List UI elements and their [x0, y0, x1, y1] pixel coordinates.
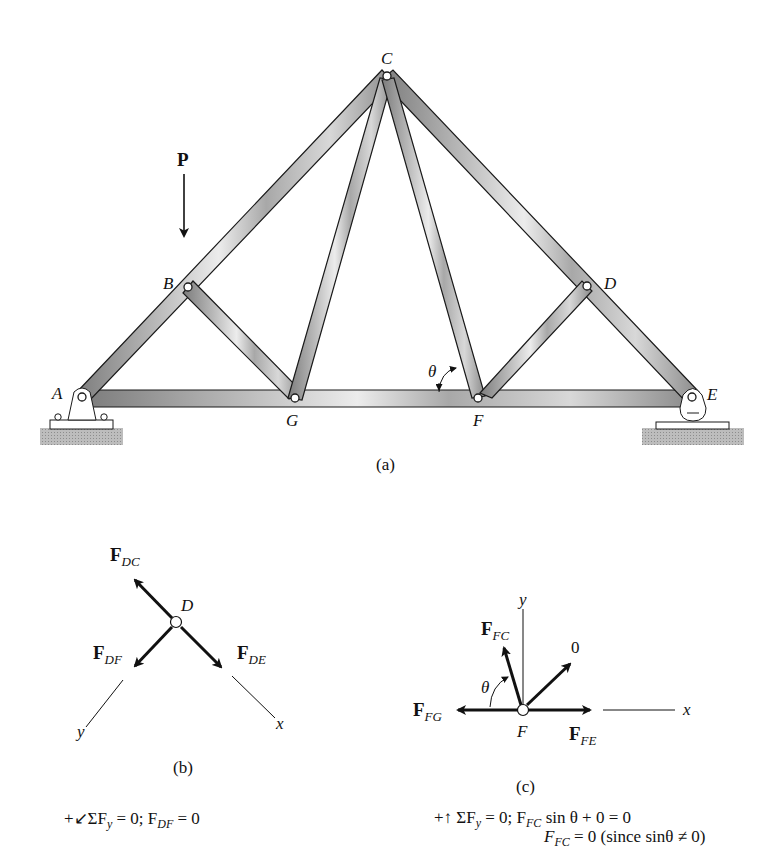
theta-arc-a — [439, 368, 456, 392]
ground-right — [642, 428, 744, 445]
force-FDE-label: FDE — [237, 642, 266, 667]
theta-arc-c — [490, 677, 508, 707]
axis-y-label-c: y — [517, 590, 527, 609]
ground-left — [40, 428, 123, 445]
member-FD — [480, 281, 592, 398]
joint-D-fbd — [171, 617, 182, 628]
caption-b: (b) — [173, 758, 193, 777]
node-label-F: F — [472, 411, 484, 430]
member-AE-bottom-chord — [84, 390, 692, 407]
force-FFG-label: FFG — [413, 699, 443, 724]
member-BG — [183, 281, 302, 399]
force-FDF-label: FDF — [93, 642, 123, 667]
equation-c-line2: FFC = 0 (since sinθ ≠ 0) — [544, 827, 705, 848]
force-FDC-arrow — [135, 580, 172, 618]
joint-D-fbd-label: D — [180, 596, 194, 615]
axis-y-b — [86, 680, 123, 727]
fbd-joint-F: y x F θ FFC FFG FFE 0 (c) — [413, 590, 691, 796]
load-P-label: P — [177, 149, 189, 170]
caption-c: (c) — [516, 777, 535, 796]
equation-b: +↙ΣFy = 0; FDF = 0 — [64, 808, 200, 832]
theta-label-c: θ — [481, 678, 489, 697]
axis-y-label-b: y — [75, 722, 85, 741]
node-label-D: D — [603, 274, 617, 293]
truss-joints — [78, 72, 696, 402]
joint-A — [78, 393, 86, 401]
joint-G — [291, 394, 299, 402]
axis-x-b — [232, 676, 275, 718]
joint-F-fbd-label: F — [516, 722, 528, 741]
joint-F — [474, 394, 482, 402]
zero-force-label: 0 — [571, 638, 580, 657]
joint-E — [688, 393, 696, 401]
axis-x-label-c: x — [682, 700, 691, 719]
force-FDF-arrow — [135, 627, 172, 666]
node-label-G: G — [286, 411, 298, 430]
node-label-B: B — [163, 274, 174, 293]
force-FDC-label: FDC — [110, 544, 140, 569]
force-FFE-label: FFE — [569, 723, 597, 748]
zero-force-arrow — [527, 664, 570, 705]
joint-C — [383, 72, 391, 80]
node-label-C: C — [381, 49, 393, 68]
force-FFC-label: FFC — [481, 618, 510, 643]
force-FFC-arrow — [504, 648, 521, 705]
caption-a: (a) — [376, 455, 395, 474]
fbd-joint-D: y x D FDC FDF FDE (b) — [75, 544, 284, 777]
truss-part-a: P θ A B C D E F G (a) — [40, 49, 744, 474]
truss-figure: P θ A B C D E F G (a) y x D FDC FDF — [0, 0, 783, 848]
joint-F-fbd — [518, 705, 529, 716]
truss-members — [76, 70, 699, 407]
joint-B — [184, 283, 192, 291]
force-FDE-arrow — [181, 627, 221, 667]
node-label-A: A — [51, 384, 63, 403]
joint-D — [583, 282, 591, 290]
axis-x-label-b: x — [275, 714, 284, 733]
theta-label-a: θ — [428, 362, 436, 381]
node-label-E: E — [706, 385, 718, 404]
